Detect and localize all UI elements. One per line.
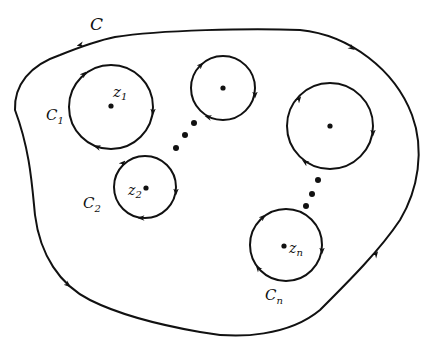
point-zn [281,243,286,248]
point-z1-label: z1 [112,83,127,102]
point-center [220,85,225,90]
circle-right [287,83,373,169]
contour-diagram: C z1 C1 z2 C2 [0,0,434,341]
circle-top-middle [191,56,255,120]
point-z2-label: z2 [127,182,142,200]
circle-c1: z1 C1 [46,65,153,149]
circle-cn-label: Cn [265,286,283,306]
circle-cn: zn Cn [250,209,322,306]
circle-c2-label: C2 [83,194,101,214]
point-zn-label: zn [288,240,303,258]
point-z2 [143,185,148,190]
outer-contour-c [15,29,419,335]
circle-c2: z2 C2 [83,156,176,218]
ellipsis-dots-lower [303,177,321,209]
ellipsis-dots-upper [173,120,197,151]
point-z1 [108,103,113,108]
outer-contour-label: C [90,14,103,34]
circle-c1-label: C1 [46,106,64,126]
point-center [327,123,332,128]
